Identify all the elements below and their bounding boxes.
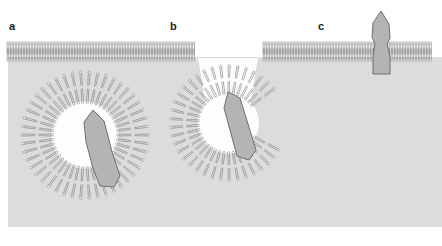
panel-label-c: c — [318, 21, 324, 32]
membrane-protein-c — [372, 11, 390, 74]
membrane-fusion-figure: a b c — [0, 0, 442, 246]
figure-canvas — [0, 0, 442, 246]
panel-label-a: a — [9, 21, 15, 32]
panel-label-b: b — [170, 21, 177, 32]
